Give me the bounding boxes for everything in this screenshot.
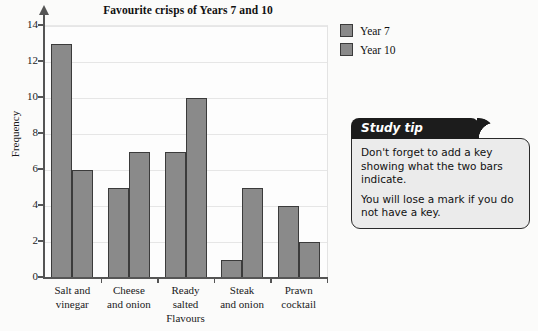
study-tip-body: Don't forget to add a key showing what t… <box>351 138 530 229</box>
chart-legend: Year 7Year 10 <box>340 24 460 62</box>
x-tick-mark <box>157 277 158 283</box>
x-axis-line <box>43 277 328 279</box>
x-category-label: Readysalted <box>154 284 218 311</box>
legend-swatch-icon <box>340 43 353 56</box>
x-tick-mark <box>327 277 328 283</box>
gridline <box>44 26 327 27</box>
y-tick-mark <box>38 240 44 241</box>
study-tip-paragraph: You will lose a mark if you do not have … <box>361 193 520 220</box>
x-tick-mark <box>101 277 102 283</box>
y-tick-label: 2 <box>12 234 38 246</box>
legend-item-year-10: Year 10 <box>340 43 460 56</box>
bar-year-10-steak-and-onion <box>242 188 263 278</box>
bar-year-7-steak-and-onion <box>221 260 242 278</box>
gridline <box>44 62 327 63</box>
bar-year-10-cheese-and-onion <box>129 152 150 278</box>
y-axis-line <box>43 14 45 278</box>
bar-chart-figure: Favourite crisps of Years 7 and 10 02468… <box>0 0 340 331</box>
y-tick-mark <box>38 24 44 25</box>
x-tick-mark <box>270 277 271 283</box>
bar-year-7-ready-salted <box>165 152 186 278</box>
x-cat-label-line: cocktail <box>267 298 331 312</box>
legend-label: Year 10 <box>360 44 396 56</box>
y-tick-mark <box>38 168 44 169</box>
y-tick-label: 0 <box>12 270 38 282</box>
legend-label: Year 7 <box>360 25 390 37</box>
y-tick-mark <box>38 132 44 133</box>
x-cat-label-line: salted <box>154 298 218 312</box>
x-cat-label-line: vinegar <box>40 298 104 312</box>
x-axis-title: Flavours <box>44 312 327 324</box>
x-cat-label-line: Prawn <box>267 284 331 298</box>
legend-swatch-icon <box>340 24 353 37</box>
y-tick-label: 14 <box>12 18 38 30</box>
y-tick-label: 4 <box>12 198 38 210</box>
y-tick-mark <box>38 60 44 61</box>
x-cat-label-line: Ready <box>154 284 218 298</box>
y-tick-mark <box>38 96 44 97</box>
x-cat-label-line: Cheese <box>97 284 161 298</box>
y-tick-mark <box>38 276 44 277</box>
y-tick-mark <box>38 204 44 205</box>
x-category-label: Steakand onion <box>210 284 274 311</box>
y-tick-label: 12 <box>12 54 38 66</box>
x-cat-label-line: and onion <box>97 298 161 312</box>
x-category-label: Salt andvinegar <box>40 284 104 311</box>
bar-year-10-prawn-cocktail <box>299 242 320 278</box>
x-cat-label-line: Salt and <box>40 284 104 298</box>
bar-year-7-salt-and-vinegar <box>51 44 72 278</box>
x-tick-mark <box>214 277 215 283</box>
bar-year-10-salt-and-vinegar <box>72 170 93 278</box>
plot-area <box>44 25 328 278</box>
x-category-label: Prawncocktail <box>267 284 331 311</box>
study-tip-title: Study tip <box>361 121 423 135</box>
study-tip-callout: Study tip Don't forget to add a key show… <box>351 118 530 229</box>
legend-item-year-7: Year 7 <box>340 24 460 37</box>
bar-year-7-prawn-cocktail <box>278 206 299 278</box>
study-tip-paragraph: Don't forget to add a key showing what t… <box>361 146 520 187</box>
x-category-label: Cheeseand onion <box>97 284 161 311</box>
chart-title: Favourite crisps of Years 7 and 10 <box>48 4 328 16</box>
bar-year-7-cheese-and-onion <box>108 188 129 278</box>
x-cat-label-line: Steak <box>210 284 274 298</box>
bar-year-10-ready-salted <box>186 98 207 278</box>
study-tip-header: Study tip <box>351 118 479 139</box>
x-cat-label-line: and onion <box>210 298 274 312</box>
y-axis-title: Frequency <box>9 86 21 182</box>
